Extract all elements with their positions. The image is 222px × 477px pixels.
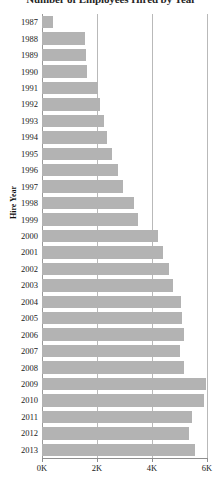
y-axis-tick-label: 2013 [21, 445, 38, 455]
bar[interactable] [42, 197, 134, 209]
bar-row: 1989 [42, 49, 207, 61]
bar[interactable] [42, 230, 158, 242]
bar-row: 2002 [42, 263, 207, 275]
bar-row: 2006 [42, 328, 207, 340]
bar-row: 1990 [42, 65, 207, 77]
bar[interactable] [42, 148, 112, 160]
x-tick [42, 458, 43, 462]
bar-row: 1994 [42, 131, 207, 143]
bar-row: 1993 [42, 115, 207, 127]
y-axis-tick-label: 1992 [21, 99, 38, 109]
bar-row: 2010 [42, 394, 207, 406]
y-axis-tick-label: 1991 [21, 83, 38, 93]
y-axis-tick-label: 2006 [21, 330, 38, 340]
y-axis-tick-label: 1996 [21, 165, 38, 175]
bar[interactable] [42, 115, 104, 127]
bar[interactable] [42, 164, 118, 176]
bar[interactable] [42, 378, 206, 390]
y-axis-tick-label: 1988 [21, 34, 38, 44]
bar-chart: Number of Employees Hired by Year Hire Y… [0, 0, 222, 477]
bar[interactable] [42, 49, 86, 61]
bar[interactable] [42, 213, 138, 225]
y-axis-tick-label: 1995 [21, 149, 38, 159]
bar[interactable] [42, 180, 123, 192]
gridline-6K [207, 14, 208, 458]
plot-area: 1987198819891990199119921993199419951996… [42, 14, 207, 458]
y-axis-tick-label: 2012 [21, 428, 38, 438]
y-axis-tick-label: 2000 [21, 231, 38, 241]
bar[interactable] [42, 16, 53, 28]
bar[interactable] [42, 279, 173, 291]
bar[interactable] [42, 444, 195, 456]
bar-row: 1995 [42, 148, 207, 160]
bar-row: 2001 [42, 246, 207, 258]
x-tick [152, 458, 153, 462]
y-axis-tick-label: 2002 [21, 264, 38, 274]
y-axis-tick-label: 1994 [21, 132, 38, 142]
bar[interactable] [42, 131, 107, 143]
y-axis-tick-label: 1990 [21, 67, 38, 77]
y-axis-tick-label: 1989 [21, 50, 38, 60]
bar[interactable] [42, 312, 182, 324]
bar[interactable] [42, 32, 85, 44]
bar-row: 2013 [42, 444, 207, 456]
bar-row: 2000 [42, 230, 207, 242]
bar[interactable] [42, 296, 181, 308]
x-axis-tick-label: 4K [147, 463, 157, 473]
bar-row: 1988 [42, 32, 207, 44]
y-axis-tick-label: 1997 [21, 182, 38, 192]
y-axis-tick-label: 2004 [21, 297, 38, 307]
y-axis-tick-label: 1999 [21, 215, 38, 225]
y-axis-tick-label: 2009 [21, 379, 38, 389]
bar[interactable] [42, 345, 180, 357]
bar[interactable] [42, 361, 184, 373]
x-tick [207, 458, 208, 462]
bar-row: 2012 [42, 427, 207, 439]
bar-row: 1991 [42, 82, 207, 94]
bar-row: 1987 [42, 16, 207, 28]
y-axis-tick-label: 2007 [21, 346, 38, 356]
bar[interactable] [42, 82, 98, 94]
y-axis-tick-label: 2005 [21, 313, 38, 323]
y-axis-tick-label: 2003 [21, 280, 38, 290]
y-axis-tick-label: 1993 [21, 116, 38, 126]
y-axis-tick-label: 2010 [21, 395, 38, 405]
x-axis-tick-label: 2K [92, 463, 102, 473]
y-axis-tick-label: 2001 [21, 247, 38, 257]
y-axis-tick-label: 2008 [21, 363, 38, 373]
bar-row: 2011 [42, 411, 207, 423]
bar-row: 1996 [42, 164, 207, 176]
bar-row: 2007 [42, 345, 207, 357]
x-axis-line [42, 458, 207, 459]
bar[interactable] [42, 98, 100, 110]
x-tick [97, 458, 98, 462]
bar[interactable] [42, 427, 189, 439]
y-axis-tick-label: 1987 [21, 17, 38, 27]
x-axis: 0K2K4K6K [42, 458, 207, 477]
y-axis-tick-label: 2011 [21, 412, 38, 422]
bar-row: 2008 [42, 361, 207, 373]
bar-row: 1998 [42, 197, 207, 209]
bar-row: 2004 [42, 296, 207, 308]
bar-row: 2005 [42, 312, 207, 324]
y-axis-title: Hire Year [9, 173, 18, 233]
bar[interactable] [42, 394, 204, 406]
bar-row: 1999 [42, 213, 207, 225]
bar-row: 1997 [42, 180, 207, 192]
bar[interactable] [42, 246, 163, 258]
bar[interactable] [42, 65, 87, 77]
bar-row: 1992 [42, 98, 207, 110]
y-axis-tick-label: 1998 [21, 198, 38, 208]
chart-title: Number of Employees Hired by Year [0, 0, 222, 5]
bar[interactable] [42, 411, 192, 423]
bar[interactable] [42, 263, 169, 275]
bar-row: 2009 [42, 378, 207, 390]
x-axis-tick-label: 6K [202, 463, 212, 473]
bar-row: 2003 [42, 279, 207, 291]
x-axis-tick-label: 0K [37, 463, 47, 473]
bar[interactable] [42, 328, 184, 340]
